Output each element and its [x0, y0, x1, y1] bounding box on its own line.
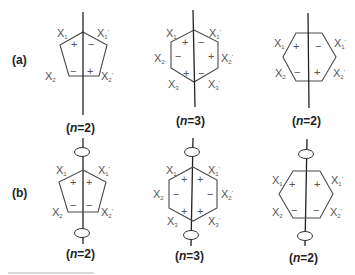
sign-lower-left: −: [294, 66, 300, 78]
sign-upper-right: −: [315, 40, 321, 52]
vertex-label-x3: X3: [167, 215, 178, 228]
vertex-label-x1-prime: X1': [209, 27, 221, 40]
symmetry-label: (n=2): [66, 121, 95, 135]
diagram-a1-pentagon: X1 X1' X2 X2' + − − + (n=2): [45, 12, 113, 135]
sign-lower-right: +: [87, 65, 93, 77]
symmetry-label: (n=3): [175, 249, 204, 263]
vertex-label-x2-prime: X2': [330, 206, 342, 219]
sign-upper-left: +: [289, 178, 295, 190]
vertex-label-x1: X1: [166, 164, 177, 177]
vertex-label-x2-prime: X2': [101, 70, 113, 83]
sign-mid-left: −: [175, 50, 181, 62]
vertex-label-x2: X2: [45, 70, 56, 83]
symmetry-label: (n=2): [66, 247, 95, 261]
vertex-label-x2-prime: X2': [221, 52, 233, 65]
sign-lower-right: +: [314, 66, 320, 78]
sign-upper-right: +: [86, 176, 92, 188]
mirror-plane-line: [193, 10, 195, 107]
sign-mid-right: +: [208, 50, 214, 62]
vertex-label-x2: X2: [272, 206, 283, 219]
sign-bottom-left: +: [181, 205, 187, 217]
axis-ellipse-bottom: [298, 232, 313, 241]
mirror-plane-line: [308, 13, 309, 108]
sign-mid-right: −: [207, 188, 213, 200]
vertex-label-x3-prime: X3': [208, 215, 220, 228]
hexagon-shape: [283, 33, 336, 81]
sign-upper-right: +: [314, 178, 320, 190]
axis-ellipse-top: [185, 148, 200, 157]
vertex-label-x1-prime: X1': [208, 164, 220, 177]
vertex-label-x2-prime: X2': [333, 67, 345, 80]
sign-lower-right: −: [86, 199, 92, 211]
symmetry-label: (n=3): [176, 114, 205, 128]
vertex-label-x1: X1: [272, 174, 283, 187]
sign-lower-left: −: [291, 204, 297, 216]
vertex-label-x1: X1: [274, 37, 285, 50]
sign-lower-right: −: [313, 204, 319, 216]
sign-lower-left: −: [70, 199, 76, 211]
vertex-label-x1-prime: X1': [331, 174, 343, 187]
sign-upper-left: +: [293, 40, 299, 52]
vertex-label-x3-prime: X3': [208, 78, 220, 91]
sign-top-right: +: [197, 173, 203, 185]
sign-top-left: +: [182, 36, 188, 48]
sign-bottom-right: +: [197, 205, 203, 217]
sign-bottom-right: −: [198, 67, 204, 79]
vertex-label-x2: X2: [153, 188, 164, 201]
panel-label-b: (b): [12, 186, 27, 200]
sign-upper-right: −: [88, 38, 94, 50]
diagram-b2-hexagon: X1 X1' X2 X2' X3 X3' + + − − + + (n=3): [153, 138, 233, 263]
panel-label-a: (a): [12, 53, 27, 67]
sign-top-left: +: [181, 173, 187, 185]
vertex-label-x1-prime: X1': [334, 37, 346, 50]
sign-upper-left: +: [70, 176, 76, 188]
diagram-b1-pentagon: X1 X1' X2 X2' + + − − (n=2): [52, 138, 113, 261]
vertex-label-x2: X2: [154, 52, 165, 65]
vertex-label-x1: X1: [56, 164, 67, 177]
vertex-label-x3: X3: [168, 78, 179, 91]
vertex-label-x1: X1: [57, 27, 68, 40]
figure-canvas: (a) X1 X1' X2 X2' + − − + (n=2) X1 X1' X…: [0, 0, 355, 275]
vertex-label-x1: X1: [166, 27, 177, 40]
symmetry-label: (n=2): [289, 251, 318, 265]
sign-top-right: −: [198, 36, 204, 48]
axis-ellipse-top: [299, 150, 314, 159]
vertex-label-x2: X2: [52, 206, 63, 219]
vertex-label-x2-prime: X2': [221, 188, 233, 201]
vertex-label-x2: X2: [275, 67, 286, 80]
diagram-a2-hexagon: X1 X1' X2 X2' X3 X3' + − − + + − (n=3): [154, 10, 233, 128]
sign-upper-left: +: [71, 38, 77, 50]
sign-lower-left: −: [70, 65, 76, 77]
vertex-label-x1-prime: X1': [97, 27, 109, 40]
vertex-label-x2-prime: X2': [101, 206, 113, 219]
axis-ellipse-bottom: [75, 229, 90, 238]
symmetry-label: (n=2): [292, 114, 321, 128]
sign-mid-left: −: [173, 188, 179, 200]
cropped-caption-fragment: [8, 272, 94, 274]
vertex-label-x1-prime: X1': [98, 164, 110, 177]
axis-ellipse-top: [75, 148, 90, 157]
axis-ellipse-bottom: [184, 231, 199, 240]
sign-bottom-left: +: [183, 67, 189, 79]
diagram-a3-hexagon: X1 X1' X2 X2' + − − + (n=2): [274, 13, 346, 128]
diagram-b3-hexagon: X1 X1' X2 X2' + + − − (n=2): [272, 139, 343, 265]
